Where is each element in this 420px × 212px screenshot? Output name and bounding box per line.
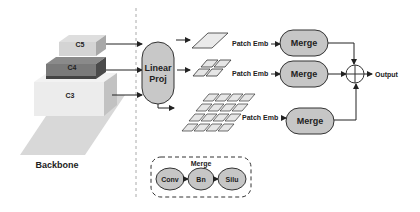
merge-label-2: Merge — [291, 69, 318, 79]
merge-node-3: Merge — [286, 108, 334, 134]
backbone-label: Backbone — [35, 160, 78, 170]
proj-label-2: Proj — [149, 74, 167, 84]
sum-node-icon — [346, 65, 364, 83]
architecture-diagram: C3 C4 C5 Backbone Linear Proj — [0, 0, 420, 212]
layer-c4-label: C4 — [68, 64, 77, 71]
merge-legend-title: Merge — [191, 160, 212, 168]
merge-node-2: Merge — [280, 61, 328, 87]
proj-label-1: Linear — [144, 63, 172, 73]
patch-grid-4x4 — [182, 94, 255, 131]
op-bn: Bn — [196, 176, 205, 183]
layer-c5: C5 — [59, 35, 106, 56]
layer-c3: C3 — [34, 73, 117, 116]
patch-grid-1x1 — [192, 33, 228, 48]
layer-c3-label: C3 — [66, 92, 75, 99]
patch-emb-label-1: Patch Emb — [232, 40, 268, 47]
patch-grid-2x2 — [193, 60, 231, 76]
layer-c5-label: C5 — [76, 41, 85, 48]
merge-label-1: Merge — [291, 38, 318, 48]
linear-proj-node: Linear Proj — [142, 42, 174, 104]
merge-label-3: Merge — [297, 116, 324, 126]
patch-emb-label-3: Patch Emb — [242, 114, 278, 121]
layer-c4: C4 — [46, 57, 106, 79]
patch-emb-label-2: Patch Emb — [232, 70, 268, 77]
op-conv: Conv — [161, 176, 179, 183]
output-label: Output — [375, 71, 399, 79]
op-silu: Silu — [226, 176, 239, 183]
merge-legend: Merge Conv Bn Silu — [151, 157, 251, 197]
merge-node-1: Merge — [280, 30, 328, 56]
